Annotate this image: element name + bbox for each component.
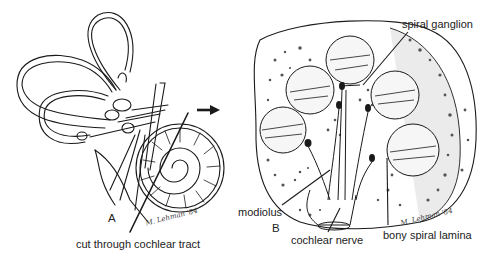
panel-a-letter: A	[108, 212, 116, 224]
panel-b-cochlea-cross-section	[254, 21, 476, 232]
arrow-right-icon	[197, 105, 220, 115]
caption-cut-through-cochlear-tract: cut through cochlear tract	[76, 238, 200, 250]
panel-b-letter: B	[272, 222, 280, 234]
label-modiolus: modiolus	[238, 206, 282, 218]
label-cochlear-nerve: cochlear nerve	[291, 234, 363, 246]
label-bony-spiral-lamina: bony spiral lamina	[383, 229, 472, 241]
panel-a-inner-ear-drawing	[17, 13, 224, 232]
label-spiral-ganglion: spiral ganglion	[402, 18, 473, 30]
